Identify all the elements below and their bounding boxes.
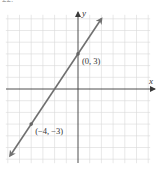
coordinate-plane: x y (0, 3)(−4, −3) bbox=[0, 0, 158, 171]
point-marker bbox=[29, 122, 33, 126]
line-plot: (0, 3)(−4, −3) bbox=[10, 19, 101, 156]
x-axis-label: x bbox=[148, 76, 153, 86]
y-axis-label: y bbox=[81, 8, 86, 18]
point-label: (0, 3) bbox=[82, 56, 101, 66]
point-marker bbox=[76, 52, 80, 56]
point-label: (−4, −3) bbox=[35, 126, 63, 136]
